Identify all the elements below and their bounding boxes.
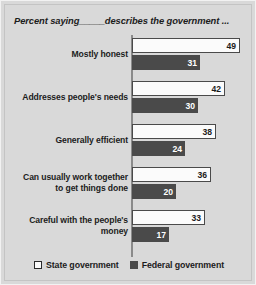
chart-legend: State governmentFederal government <box>1 260 256 270</box>
bar-value-label: 49 <box>226 41 236 50</box>
category-label: Generally efficient <box>8 135 128 146</box>
bar-federal: 24 <box>132 141 185 156</box>
bar-group: Careful with the people'smoney3317 <box>1 209 256 245</box>
bar-value-label: 20 <box>163 187 173 196</box>
category-label: Can usually work togetherto get things d… <box>8 172 128 193</box>
bar-value-label: 24 <box>172 144 182 153</box>
bar-value-label: 42 <box>211 84 221 93</box>
bar-value-label: 36 <box>197 170 207 179</box>
legend-item[interactable]: State government <box>34 260 119 270</box>
bar-state: 38 <box>132 124 216 139</box>
legend-label: Federal government <box>142 260 224 270</box>
bar-state: 36 <box>132 167 211 182</box>
bar-value-label: 33 <box>191 213 201 222</box>
bar-federal: 30 <box>132 98 198 113</box>
chart-title: Percent saying_____describes the governm… <box>14 15 250 26</box>
bar-value-label: 17 <box>156 230 166 239</box>
category-label: Mostly honest <box>8 49 128 60</box>
bar-group: Mostly honest4931 <box>1 37 256 73</box>
category-label: Careful with the people'smoney <box>8 215 128 236</box>
bar-federal: 31 <box>132 55 200 70</box>
bar-group: Generally efficient3824 <box>1 123 256 159</box>
bar-group: Can usually work togetherto get things d… <box>1 166 256 202</box>
bar-federal: 20 <box>132 184 176 199</box>
chart-figure: Percent saying_____describes the governm… <box>0 0 256 285</box>
bar-value-label: 38 <box>202 127 212 136</box>
plot-area: Mostly honest4931Addresses people's need… <box>1 34 256 256</box>
bar-federal: 17 <box>132 227 169 242</box>
category-label: Addresses people's needs <box>8 92 128 103</box>
bar-value-label: 30 <box>185 101 195 110</box>
legend-swatch-icon <box>130 261 138 269</box>
bar-state: 49 <box>132 38 240 53</box>
bar-group: Addresses people's needs4230 <box>1 80 256 116</box>
bar-state: 42 <box>132 81 225 96</box>
bar-value-label: 31 <box>187 58 197 67</box>
bar-state: 33 <box>132 210 205 225</box>
legend-item[interactable]: Federal government <box>130 260 224 270</box>
legend-swatch-icon <box>34 261 42 269</box>
legend-label: State government <box>46 260 119 270</box>
